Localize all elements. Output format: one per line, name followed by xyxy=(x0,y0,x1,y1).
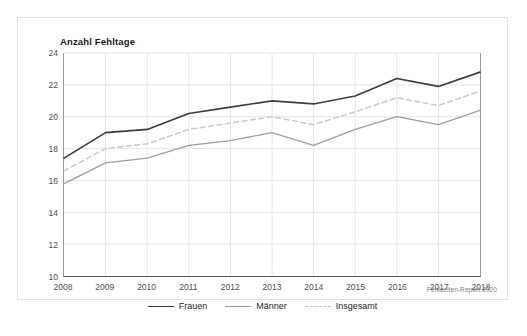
x-axis-tick: 2009 xyxy=(95,282,114,292)
source-note: Fehlzeiten-Report 2020 xyxy=(427,286,497,293)
x-axis-tick-labels: 2008200920102011201220132014201520162017… xyxy=(63,282,481,296)
series-line-frauen xyxy=(64,72,480,158)
y-axis-tick-labels: 1012141618202224 xyxy=(36,53,58,277)
legend-swatch-icon xyxy=(148,306,174,307)
x-axis-tick: 2011 xyxy=(179,282,197,292)
y-axis-tick: 14 xyxy=(49,208,58,218)
legend-label: Frauen xyxy=(179,301,208,311)
series-layer xyxy=(64,53,480,276)
figure-card: Anzahl Fehltage 1012141618202224 2008200… xyxy=(17,17,508,300)
y-axis-tick: 18 xyxy=(49,144,58,154)
y-axis-tick: 10 xyxy=(49,272,58,282)
chart-title: Anzahl Fehltage xyxy=(60,36,135,47)
y-axis-tick: 20 xyxy=(49,112,58,122)
legend-item-frauen[interactable]: Frauen xyxy=(148,301,208,311)
x-axis-tick: 2014 xyxy=(304,282,323,292)
series-line-mnner xyxy=(64,110,480,183)
chart-legend: FrauenMännerInsgesamt xyxy=(18,301,507,311)
x-axis-tick: 2012 xyxy=(221,282,240,292)
legend-item-insgesamt[interactable]: Insgesamt xyxy=(305,301,378,311)
legend-swatch-icon xyxy=(305,306,331,307)
plot-area xyxy=(63,53,481,277)
y-axis-tick: 22 xyxy=(49,80,58,90)
y-axis-tick: 16 xyxy=(49,176,58,186)
x-axis-tick: 2016 xyxy=(388,282,407,292)
x-axis-tick: 2013 xyxy=(263,282,282,292)
legend-label: Männer xyxy=(256,301,287,311)
y-axis-tick: 24 xyxy=(49,48,58,58)
x-axis-tick: 2010 xyxy=(137,282,156,292)
legend-label: Insgesamt xyxy=(336,301,378,311)
legend-item-mnner[interactable]: Männer xyxy=(225,301,287,311)
x-axis-tick: 2008 xyxy=(54,282,73,292)
legend-swatch-icon xyxy=(225,306,251,307)
x-axis-tick: 2015 xyxy=(346,282,365,292)
y-axis-tick: 12 xyxy=(49,240,58,250)
